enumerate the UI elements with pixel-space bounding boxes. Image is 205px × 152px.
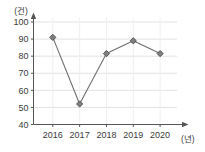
y-axis-unit-label: (건)	[14, 6, 28, 16]
y-axis-tick-label: 50	[18, 103, 28, 113]
y-axis-tick-label: 90	[18, 34, 28, 44]
line-chart-figure: 405060708090100 20162017201820192020 (건)…	[0, 0, 205, 152]
x-axis-tick-labels: 20162017201820192020	[43, 130, 170, 140]
x-axis-unit-label: (년)	[181, 134, 195, 144]
x-axis-tick-label: 2019	[123, 130, 143, 140]
y-axis-tick-label: 80	[18, 51, 28, 61]
y-axis-tick-label: 70	[18, 68, 28, 78]
y-axis-tick-label: 100	[13, 17, 28, 27]
chart-canvas: 405060708090100 20162017201820192020 (건)…	[0, 0, 205, 152]
x-axis-tick-label: 2020	[150, 130, 170, 140]
y-axis-tick-label: 60	[18, 86, 28, 96]
y-axis-tick-label: 40	[18, 120, 28, 130]
x-axis-tick-label: 2018	[96, 130, 116, 140]
x-axis-tick-label: 2016	[43, 130, 63, 140]
x-axis-tick-label: 2017	[70, 130, 90, 140]
